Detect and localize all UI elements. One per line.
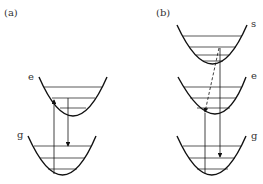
diagram-graphics bbox=[0, 0, 263, 184]
panel-b-excited-well bbox=[178, 77, 246, 114]
energy-level-diagram: (a) e g (b) s e g bbox=[0, 0, 263, 184]
panel-b-dashed-arrow bbox=[205, 48, 219, 112]
panel-a-excited-well bbox=[39, 77, 107, 116]
panel-b-s-well bbox=[177, 25, 247, 64]
